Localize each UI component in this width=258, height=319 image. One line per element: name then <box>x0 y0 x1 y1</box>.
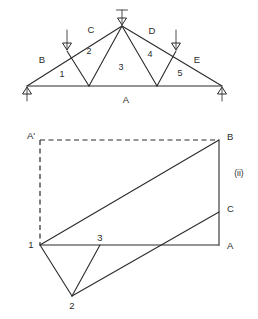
force-ray-1-to-2 <box>40 245 72 296</box>
force-ray-1-to-B <box>40 140 219 245</box>
truss-load-left <box>63 30 72 50</box>
force-vertex-label-3: 3 <box>97 232 102 243</box>
truss-right-rafter <box>122 26 222 86</box>
force-vertex-label-A-prime: A' <box>27 130 35 141</box>
truss-web-left-diagonal <box>89 26 122 86</box>
truss-reaction-right <box>218 87 227 101</box>
diagram-canvas: A B C D E 1 2 3 4 5 <box>0 0 258 319</box>
truss-space-label-5: 5 <box>177 68 182 78</box>
truss-space-label-A: A <box>123 94 130 105</box>
force-ray-2-to-C <box>72 212 219 296</box>
force-diagram-panel: A' B C A 1 2 3 (ii) <box>27 130 244 311</box>
truss-web-right-strut <box>157 51 176 86</box>
truss-space-label-E: E <box>194 54 200 65</box>
force-vertex-label-2: 2 <box>69 300 74 311</box>
truss-load-right <box>172 30 181 50</box>
truss-panel: A B C D E 1 2 3 4 5 <box>23 10 227 105</box>
force-vertex-label-1: 1 <box>28 239 33 250</box>
force-vertex-label-A: A <box>227 240 234 251</box>
force-vertex-label-B: B <box>227 131 233 142</box>
structural-diagram-figure: A B C D E 1 2 3 4 5 <box>0 0 258 319</box>
force-diagram-panel-caption: (ii) <box>234 168 244 178</box>
truss-space-label-C: C <box>88 24 95 35</box>
truss-space-label-B: B <box>39 54 45 65</box>
truss-load-apex <box>117 10 128 25</box>
truss-space-label-4: 4 <box>147 49 152 59</box>
truss-space-label-3: 3 <box>118 62 123 72</box>
truss-space-label-1: 1 <box>59 69 64 79</box>
force-vertex-label-C: C <box>227 203 234 214</box>
truss-reaction-left <box>23 87 32 101</box>
truss-space-label-2: 2 <box>86 46 91 56</box>
truss-space-label-D: D <box>149 25 156 36</box>
